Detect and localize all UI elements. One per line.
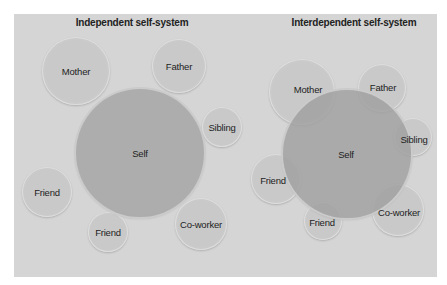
bubble-friend-1: Friend (22, 167, 72, 217)
bubble-friend-2: Friend (88, 212, 128, 252)
bubble-label: Father (166, 61, 192, 72)
bubble-self: Self (76, 89, 204, 217)
label-self: Self (338, 149, 354, 160)
bubble-sibling: Sibling (202, 107, 242, 147)
bubble-coworker: Co-worker (175, 198, 227, 250)
bubble-label: Sibling (208, 122, 235, 133)
label-coworker: Co-worker (378, 207, 420, 218)
label-mother: Mother (294, 84, 322, 95)
bubble-label: Co-worker (180, 219, 222, 230)
bubble-label: Mother (62, 66, 90, 77)
independent-title: Independent self-system (76, 17, 189, 28)
label-friend-1: Friend (260, 175, 286, 186)
label-sibling: Sibling (400, 134, 427, 145)
label-friend-2: Friend (309, 217, 335, 228)
bubble-father: Father (152, 39, 206, 93)
bubble-label: Friend (34, 187, 60, 198)
label-father: Father (370, 82, 396, 93)
interdependent-title: Interdependent self-system (292, 17, 417, 28)
bubble-label: Friend (95, 227, 121, 238)
bubble-mother: Mother (42, 37, 110, 105)
bubble-label: Self (132, 148, 148, 159)
